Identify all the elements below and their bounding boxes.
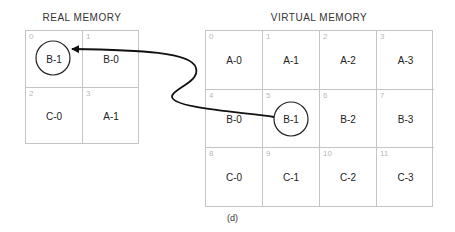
page-index: 0 — [209, 32, 213, 41]
virtual-memory-cell-2: 2A-2 — [320, 31, 377, 90]
page-index: 8 — [209, 149, 213, 158]
page-index: 3 — [380, 32, 384, 41]
frame-index: 1 — [86, 32, 90, 41]
frame-index: 2 — [29, 89, 33, 98]
page-label: C-2 — [320, 172, 376, 183]
page-index: 7 — [380, 91, 384, 100]
page-label: B-2 — [320, 113, 376, 124]
page-label: C-0 — [206, 172, 262, 183]
page-label: C-0 — [26, 111, 82, 122]
virtual-memory-cell-10: 10C-2 — [320, 148, 377, 206]
page-label: B-0 — [83, 54, 139, 65]
virtual-memory-cell-11: 11C-3 — [377, 148, 434, 206]
page-index: 9 — [266, 149, 270, 158]
real-memory-cell-0: 0 B-1 — [26, 31, 83, 88]
page-label: C-1 — [263, 172, 319, 183]
page-index: 5 — [266, 91, 270, 100]
frame-index: 0 — [29, 32, 33, 41]
real-memory-title: REAL MEMORY — [20, 12, 144, 23]
page-index: 1 — [266, 32, 270, 41]
page-label: C-3 — [377, 172, 434, 183]
virtual-memory-cell-3: 3A-3 — [377, 31, 434, 90]
virtual-memory-cell-0: 0A-0 — [206, 31, 263, 90]
virtual-memory-title: VIRTUAL MEMORY — [205, 12, 433, 23]
page-label: A-0 — [206, 55, 262, 66]
frame-index: 3 — [86, 89, 90, 98]
real-memory-grid: 0 B-1 1 B-0 2 C-0 3 A-1 — [25, 30, 139, 144]
virtual-memory-cell-8: 8C-0 — [206, 148, 263, 206]
virtual-memory-cell-1: 1A-1 — [263, 31, 320, 90]
virtual-memory-cell-7: 7B-3 — [377, 90, 434, 148]
page-label: B-3 — [377, 113, 434, 124]
page-label: A-3 — [377, 55, 434, 66]
page-label: A-1 — [83, 111, 139, 122]
real-memory-cell-2: 2 C-0 — [26, 88, 83, 144]
real-memory-cell-3: 3 A-1 — [83, 88, 139, 144]
page-label: B-1 — [263, 113, 319, 124]
virtual-memory-cell-6: 6B-2 — [320, 90, 377, 148]
page-index: 10 — [323, 149, 332, 158]
virtual-memory-cell-4: 4B-0 — [206, 90, 263, 148]
page-label: B-1 — [26, 54, 82, 65]
page-index: 6 — [323, 91, 327, 100]
virtual-memory-cell-9: 9C-1 — [263, 148, 320, 206]
page-index: 2 — [323, 32, 327, 41]
page-label: B-0 — [206, 113, 262, 124]
figure-caption: (d) — [227, 213, 238, 223]
virtual-memory-grid: 0A-0 1A-1 2A-2 3A-3 4B-0 5B-1 6B-2 7B-3 … — [205, 30, 433, 207]
page-label: A-2 — [320, 55, 376, 66]
page-index: 4 — [209, 91, 213, 100]
virtual-memory-cell-5: 5B-1 — [263, 90, 320, 148]
real-memory-cell-1: 1 B-0 — [83, 31, 139, 88]
page-index: 11 — [380, 149, 388, 158]
page-label: A-1 — [263, 55, 319, 66]
